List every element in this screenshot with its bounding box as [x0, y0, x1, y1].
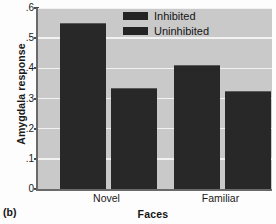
- panel-label: (b): [3, 206, 16, 218]
- legend-label: Inhibited: [154, 11, 196, 22]
- bar-familiar-uninhibited: [225, 91, 271, 189]
- x-axis-title: Faces: [36, 208, 270, 220]
- chart-legend: InhibitedUninhibited: [123, 9, 209, 39]
- bar-chart-figure: Amygdala response 0.1.2.3.4.5.6 Inhibite…: [0, 0, 276, 224]
- bar-familiar-inhibited: [174, 65, 220, 189]
- legend-label: Uninhibited: [154, 26, 209, 37]
- x-axis-tick-labels: NovelFamiliar: [36, 192, 270, 208]
- legend-swatch-icon: [123, 27, 148, 35]
- legend-item-inhibited: Inhibited: [123, 9, 209, 23]
- bar-novel-inhibited: [60, 23, 106, 189]
- legend-swatch-icon: [123, 12, 148, 20]
- x-tick-label-familiar: Familiar: [181, 192, 261, 204]
- x-tick-label-novel: Novel: [67, 192, 147, 204]
- legend-item-uninhibited: Uninhibited: [123, 24, 209, 38]
- bar-novel-uninhibited: [111, 88, 157, 189]
